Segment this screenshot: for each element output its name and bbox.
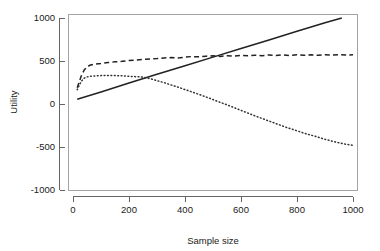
x-tick-label: 0: [70, 204, 75, 215]
y-tick-label: 1000: [34, 12, 55, 23]
chart-figure: 10005000-500-1000 02004006008001000 Samp…: [0, 0, 380, 251]
y-tick-label: -500: [36, 141, 55, 152]
x-tick-label: 800: [289, 204, 305, 215]
x-tick-label: 600: [233, 204, 249, 215]
x-tick-label: 200: [121, 204, 137, 215]
x-tick-label: 1000: [342, 204, 363, 215]
y-tick-label: 500: [39, 55, 55, 66]
x-axis-title: Sample size: [187, 235, 239, 246]
y-tick-label: 0: [50, 98, 55, 109]
x-tick-label: 400: [177, 204, 193, 215]
y-axis-title: Utility: [8, 90, 19, 113]
utility-vs-sample-size-chart: 10005000-500-1000 02004006008001000 Samp…: [0, 0, 380, 251]
y-tick-label: -1000: [31, 184, 55, 195]
